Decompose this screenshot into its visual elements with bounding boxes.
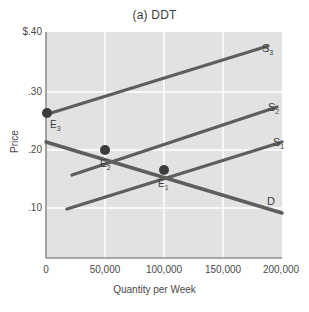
- annotation-e2-sub: 2: [107, 164, 111, 171]
- x-tick-label-50000: 50,000: [75, 264, 135, 275]
- data-point-e3: [42, 108, 52, 118]
- x-tick-label-0: 0: [26, 264, 66, 275]
- annotation-e3-text: E: [50, 119, 57, 130]
- y-axis-title: Price: [9, 112, 20, 172]
- y-tick-label-10: .10: [4, 202, 42, 213]
- x-tick-label-150000: 150,000: [192, 264, 254, 275]
- annotation-e1-sub: 1: [165, 184, 169, 191]
- y-tick-label-40: $.40: [4, 26, 42, 37]
- annotation-e3-sub: 3: [57, 125, 61, 132]
- data-point-e1: [159, 165, 169, 175]
- curve-label-s1-sub: 1: [280, 143, 284, 150]
- x-tick-label-200000: 200,000: [250, 264, 309, 275]
- curve-label-s1: S1: [273, 136, 284, 150]
- curve-label-s2: S2: [268, 101, 279, 115]
- curve-label-s2-sub: 2: [275, 108, 279, 115]
- x-tick-label-100000: 100,000: [133, 264, 195, 275]
- chart-figure: (a) DDT: [0, 0, 309, 312]
- curve-label-s3: S3: [262, 42, 273, 56]
- curve-label-s3-sub: 3: [269, 49, 273, 56]
- annotation-label-e2: E2: [100, 158, 111, 171]
- curve-label-demand: D: [267, 195, 275, 207]
- y-tick-label-30: .30: [4, 86, 42, 97]
- annotation-label-e3: E3: [50, 119, 61, 132]
- annotation-e1-text: E: [158, 178, 165, 189]
- x-axis-title: Quantity per Week: [0, 284, 309, 295]
- data-point-e2: [100, 145, 110, 155]
- annotation-label-e1: E1: [158, 178, 169, 191]
- annotation-e2-text: E: [100, 158, 107, 169]
